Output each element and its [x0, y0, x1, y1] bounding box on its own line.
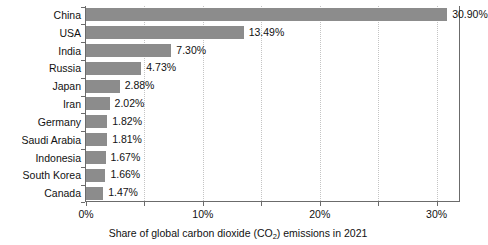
category-tick [81, 7, 85, 8]
bar-value-label: 1.66% [110, 167, 140, 181]
x-tick-label-20: 20% [309, 208, 330, 221]
category-label-germany: Germany [0, 115, 81, 129]
bar-value-label: 1.82% [112, 114, 142, 128]
bar-row[interactable]: 30.90% [86, 6, 460, 24]
bar-row[interactable]: 2.02% [86, 95, 460, 113]
bar-value-label: 2.88% [125, 78, 155, 92]
category-tick [81, 60, 85, 61]
bar-south-korea[interactable] [86, 169, 105, 182]
category-tick [81, 185, 85, 186]
category-tick [81, 131, 85, 132]
bar-row[interactable]: 1.47% [86, 184, 460, 202]
category-label-china: China [0, 8, 81, 22]
bar-value-label: 1.47% [108, 185, 138, 199]
bar-saudi-arabia[interactable] [86, 133, 107, 146]
x-axis-title-subscript: 2 [273, 232, 277, 241]
category-label-iran: Iran [0, 97, 81, 111]
x-tick-15 [261, 202, 262, 206]
value-axis: 0%10%20%30% [85, 202, 460, 228]
x-tick-10 [203, 202, 204, 206]
bar-russia[interactable] [86, 62, 141, 75]
category-tick [81, 42, 85, 43]
x-tick-30 [437, 202, 438, 206]
bars-container: 30.90%13.49%7.30%4.73%2.88%2.02%1.82%1.8… [86, 6, 460, 202]
x-tick-label-0: 0% [78, 208, 93, 221]
x-tick-0 [86, 202, 87, 206]
bar-germany[interactable] [86, 115, 107, 128]
category-tick [81, 78, 85, 79]
bar-usa[interactable] [86, 26, 244, 39]
category-tick [81, 167, 85, 168]
category-tick [81, 149, 85, 150]
x-tick-20 [320, 202, 321, 206]
category-tick [81, 24, 85, 25]
x-axis-title-suffix: ) emissions in 2021 [277, 227, 367, 239]
x-tick-label-30: 30% [426, 208, 447, 221]
x-tick-5 [144, 202, 145, 206]
bar-canada[interactable] [86, 187, 103, 200]
bar-value-label: 2.02% [115, 96, 145, 110]
category-label-india: India [0, 44, 81, 58]
category-label-indonesia: Indonesia [0, 151, 81, 165]
x-axis-title: Share of global carbon dioxide (CO2) emi… [0, 226, 476, 242]
category-label-russia: Russia [0, 61, 81, 75]
bar-value-label: 7.30% [176, 43, 206, 57]
bar-row[interactable]: 7.30% [86, 42, 460, 60]
category-label-usa: USA [0, 26, 81, 40]
bar-iran[interactable] [86, 97, 110, 110]
category-label-canada: Canada [0, 186, 81, 200]
bar-value-label: 4.73% [146, 60, 176, 74]
bar-row[interactable]: 13.49% [86, 24, 460, 42]
category-tick [81, 113, 85, 114]
category-axis: ChinaUSAIndiaRussiaJapanIranGermanySaudi… [0, 6, 81, 202]
category-label-south-korea: South Korea [0, 168, 81, 182]
bar-indonesia[interactable] [86, 151, 106, 164]
bar-value-label: 30.90% [452, 7, 488, 21]
bar-row[interactable]: 4.73% [86, 59, 460, 77]
bar-value-label: 13.49% [249, 25, 285, 39]
bar-row[interactable]: 1.66% [86, 166, 460, 184]
bar-row[interactable]: 1.81% [86, 131, 460, 149]
x-tick-25 [378, 202, 379, 206]
bar-value-label: 1.67% [111, 150, 141, 164]
bar-row[interactable]: 2.88% [86, 77, 460, 95]
bar-row[interactable]: 1.67% [86, 149, 460, 167]
bar-value-label: 1.81% [112, 132, 142, 146]
bar-india[interactable] [86, 44, 171, 57]
bar-japan[interactable] [86, 80, 120, 93]
bar-row[interactable]: 1.82% [86, 113, 460, 131]
category-label-japan: Japan [0, 79, 81, 93]
category-tick [81, 96, 85, 97]
bar-china[interactable] [86, 8, 447, 21]
x-axis-title-prefix: Share of global carbon dioxide (CO [109, 227, 273, 239]
category-label-saudi-arabia: Saudi Arabia [0, 133, 81, 147]
x-tick-label-10: 10% [192, 208, 213, 221]
